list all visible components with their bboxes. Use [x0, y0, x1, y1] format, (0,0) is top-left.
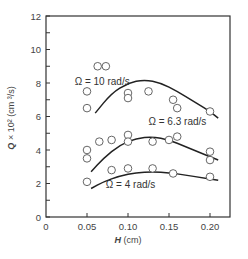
data-point: [145, 88, 153, 96]
x-tick-label: 0: [43, 221, 48, 232]
curve-label: Ω = 10 rad/s: [75, 76, 130, 87]
data-point: [102, 62, 110, 70]
y-axis-title: Q × 10² (cm ³/s): [6, 86, 16, 149]
data-point: [83, 155, 91, 163]
data-point: [108, 136, 116, 144]
data-point: [124, 165, 132, 173]
data-point: [165, 136, 173, 144]
data-point: [169, 170, 177, 178]
data-point: [96, 138, 104, 146]
data-point: [206, 156, 214, 164]
x-tick-label: 0.10: [119, 221, 138, 232]
curve-label: Ω = 4 rad/s: [106, 179, 155, 190]
data-point: [94, 62, 102, 70]
y-tick-label: 12: [30, 11, 41, 22]
data-point: [206, 148, 214, 156]
data-point: [124, 138, 132, 146]
y-axis: 024681012: [30, 11, 50, 223]
x-tick-label: 0.05: [78, 221, 97, 232]
data-point: [124, 94, 132, 102]
curve-label: Ω = 6.3 rad/s: [149, 116, 207, 127]
x-axis: 00.050.100.150.20: [43, 213, 219, 232]
data-point: [206, 173, 214, 181]
data-point: [149, 165, 157, 173]
data-point: [83, 88, 91, 96]
y-tick-label: 10: [30, 44, 41, 55]
y-tick-label: 6: [36, 111, 41, 122]
y-tick-label: 2: [36, 178, 41, 189]
data-point: [169, 96, 177, 104]
y-tick-label: 0: [36, 212, 41, 223]
y-tick-label: 8: [36, 78, 41, 89]
data-point: [83, 178, 91, 186]
x-tick-label: 0.15: [160, 221, 179, 232]
data-point: [108, 166, 116, 174]
y-tick-label: 4: [36, 145, 41, 156]
data-point: [83, 146, 91, 154]
x-tick-label: 0.20: [201, 221, 220, 232]
x-axis-title: H (cm): [115, 235, 142, 245]
data-point: [83, 104, 91, 112]
data-point: [149, 138, 157, 146]
data-point: [173, 133, 181, 141]
chart: 024681012 00.050.100.150.20 Ω = 10 rad/s…: [0, 0, 248, 259]
data-point: [206, 108, 214, 116]
data-point: [173, 104, 181, 112]
